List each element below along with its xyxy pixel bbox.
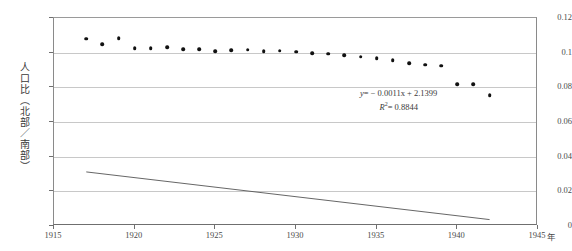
x-tick-label: 1925 xyxy=(206,230,223,240)
regression-equation: y= − 0.0011x + 2.1399 xyxy=(360,88,437,99)
x-tick-mark xyxy=(295,225,296,229)
x-tick-label: 1945 xyxy=(529,230,546,240)
data-point xyxy=(246,48,250,52)
data-point xyxy=(262,49,266,53)
data-point xyxy=(359,55,363,59)
y-axis-title: 人口比（北部／南部） xyxy=(14,62,32,172)
data-point xyxy=(197,48,201,52)
x-tick-label: 1935 xyxy=(367,230,384,240)
regression-annotation: y= − 0.0011x + 2.1399 R2= 0.8844 xyxy=(360,88,437,113)
x-tick-label: 1920 xyxy=(125,230,142,240)
x-tick-mark xyxy=(456,225,457,229)
data-point xyxy=(407,61,411,65)
data-point xyxy=(472,82,476,86)
data-point xyxy=(391,59,395,63)
data-point xyxy=(133,46,137,50)
x-tick-mark xyxy=(214,225,215,229)
data-point xyxy=(488,93,492,97)
x-tick-label: 1940 xyxy=(448,230,465,240)
data-point xyxy=(439,64,443,68)
equation-rhs: = − 0.0011x + 2.1399 xyxy=(364,88,438,98)
data-point xyxy=(101,43,105,47)
data-point xyxy=(149,47,153,51)
chart-container: 人口比（北部／南部） 0.120.10.080.060.040.020 1915… xyxy=(0,0,572,251)
data-point xyxy=(214,49,218,53)
x-tick-label: 1915 xyxy=(45,230,62,240)
x-tick-mark xyxy=(537,225,538,229)
data-point xyxy=(310,51,314,55)
r-squared-line: R2= 0.8844 xyxy=(360,99,437,113)
data-point xyxy=(278,49,282,53)
chart-title xyxy=(0,0,572,1)
x-tick-mark xyxy=(376,225,377,229)
data-point xyxy=(343,53,347,57)
data-point xyxy=(230,48,234,52)
x-tick-label: 1930 xyxy=(287,230,304,240)
data-point xyxy=(84,37,88,41)
x-tick-mark xyxy=(134,225,135,229)
data-point xyxy=(165,45,169,49)
data-point xyxy=(326,52,330,56)
x-tick-mark xyxy=(53,225,54,229)
data-point xyxy=(375,56,379,60)
data-point xyxy=(181,47,185,51)
data-point xyxy=(117,37,121,41)
data-point xyxy=(456,82,460,86)
data-point xyxy=(423,63,427,67)
plot-area xyxy=(53,17,537,225)
r-squared-value: = 0.8844 xyxy=(388,102,418,112)
data-point xyxy=(294,50,298,54)
x-axis-unit-label: 年 xyxy=(547,230,556,242)
